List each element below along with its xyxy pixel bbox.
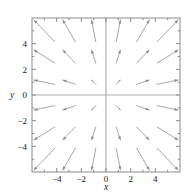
y-axis-title: y (9, 90, 15, 100)
y-tick-label: 0 (23, 90, 28, 100)
x-tick-label: −4 (52, 174, 62, 184)
plot-canvas: −4−2024 420−2−4 x y (0, 0, 192, 193)
y-tick-label: −2 (17, 116, 27, 126)
x-tick-label: 2 (128, 174, 133, 184)
y-tick-label-layer: 420−2−4 (17, 39, 27, 152)
y-tick-label: −4 (17, 142, 27, 152)
vector-field-figure: −4−2024 420−2−4 x y (0, 0, 192, 193)
y-tick-label: 2 (23, 65, 28, 75)
y-tick-label: 4 (23, 39, 28, 49)
x-axis-title: x (103, 182, 109, 192)
x-tick-label: 4 (153, 174, 158, 184)
x-tick-label: −2 (77, 174, 87, 184)
